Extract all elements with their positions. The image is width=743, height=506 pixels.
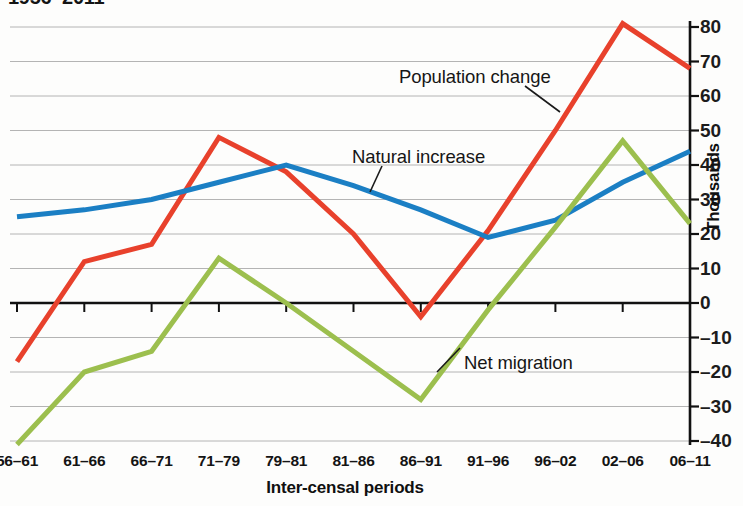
y-axis-tick-label: –40: [700, 430, 732, 452]
x-axis-tick-label: 79–81: [265, 452, 307, 470]
x-axis-tick-label: 86–91: [400, 452, 442, 470]
y-axis-tick-label: 70: [700, 51, 721, 73]
x-axis-tick-label: 91–96: [467, 452, 509, 470]
y-axis-tick-label: 60: [700, 85, 721, 107]
y-axis-tick-label: 50: [700, 120, 721, 142]
x-axis-tick-label: 81–86: [332, 452, 374, 470]
y-axis-group: [690, 21, 699, 445]
y-axis-tick-label: –20: [700, 361, 732, 383]
series-annotation-label: Net migration: [464, 352, 573, 374]
y-axis-tick-label: 0: [700, 292, 711, 314]
x-axis-title: Inter-censal periods: [0, 478, 690, 498]
annotation-leader-line: [437, 348, 460, 372]
y-axis-tick-label: 10: [700, 258, 721, 280]
y-axis-tick-label: –30: [700, 396, 732, 418]
population-change-line-chart: 1956–2011 80706050403020100–10–20–30–40 …: [0, 0, 743, 506]
x-axis-tick-label: 96–02: [534, 452, 576, 470]
x-axis-tick-label: 61–66: [63, 452, 105, 470]
zero-axis-group: [10, 303, 690, 312]
plot-area: [0, 0, 743, 506]
y-axis-tick-label: 80: [700, 16, 721, 38]
annotation-leader-line: [370, 166, 382, 192]
annotation-leader-line: [525, 86, 560, 112]
series-annotation-label: Natural increase: [352, 146, 485, 168]
x-axis-tick-label: 66–71: [131, 452, 173, 470]
x-axis-tick-label: 02–06: [602, 452, 644, 470]
y-axis-title: Thousands: [704, 143, 724, 232]
x-axis-tick-label: 71–79: [198, 452, 240, 470]
x-axis-tick-label: 56–61: [0, 452, 38, 470]
x-axis-tick-label: 06–11: [669, 452, 710, 470]
y-axis-tick-label: –10: [700, 327, 732, 349]
series-annotation-label: Population change: [399, 66, 551, 88]
